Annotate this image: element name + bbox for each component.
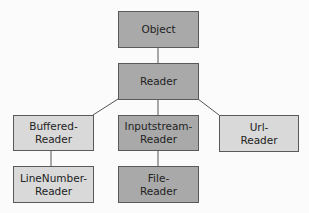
node-reader: Reader [118,63,199,100]
node-inputstream-reader: Inputstream- Reader [118,115,199,151]
node-label-line2: Reader [140,185,177,198]
node-label-line1: Inputstream- [125,120,193,133]
node-object: Object [118,11,199,48]
node-label-line2: Reader [140,133,177,146]
node-label-line2: Reader [35,185,72,198]
edge-reader-buffered [93,99,118,115]
node-url-reader: Url- Reader [219,115,299,152]
node-linenumber-reader: LineNumber- Reader [13,166,94,203]
node-buffered-reader: Buffered- Reader [13,115,94,151]
class-hierarchy-diagram: Object Reader Buffered- Reader Inputstre… [0,0,309,213]
node-label: Reader [140,75,177,88]
node-label-line1: Buffered- [29,120,78,133]
node-label-line1: LineNumber- [20,172,87,185]
node-label-line2: Reader [35,133,72,146]
node-label-line1: Url- [250,121,269,134]
node-label: Object [141,23,175,36]
node-label-line2: Reader [240,134,277,147]
node-file-reader: File- Reader [118,166,199,203]
edge-reader-url [198,99,219,115]
node-label-line1: File- [148,172,169,185]
